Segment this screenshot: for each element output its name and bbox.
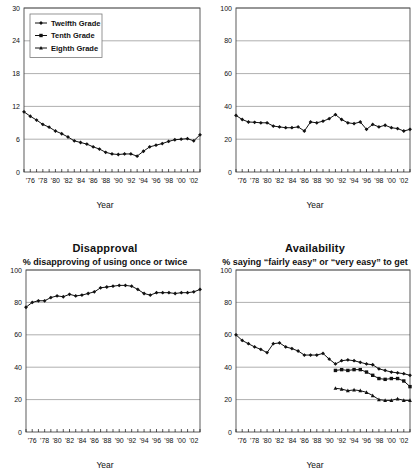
xaxis-tick-label: '00 <box>177 177 186 184</box>
xaxis-tick-label: '02 <box>399 437 408 444</box>
data-point-marker <box>61 295 65 299</box>
data-point-marker <box>396 377 399 380</box>
data-point-marker <box>315 353 319 357</box>
data-point-marker <box>358 360 362 364</box>
yaxis-tick-label: 100 <box>220 5 232 12</box>
xaxis-tick-label: '02 <box>399 177 408 184</box>
data-point-marker <box>383 123 387 127</box>
data-point-marker <box>383 378 386 381</box>
data-point-marker <box>167 139 171 143</box>
plot-area-bottom-right: 020406080100'76'78'80'82'84'86'88'90'92'… <box>210 238 420 460</box>
yaxis-tick-label: 40 <box>224 364 232 371</box>
yaxis-tick-label: 20 <box>224 396 232 403</box>
xaxis-title-top-right: Year <box>210 200 420 210</box>
four-panel-chart-figure: 0612182430'76'78'80'82'84'86'88'90'92'94… <box>0 0 420 475</box>
data-point-marker <box>117 283 121 287</box>
data-point-marker <box>105 285 109 289</box>
data-point-marker <box>383 369 387 373</box>
data-point-marker <box>284 126 288 130</box>
yaxis-tick-label: 0 <box>228 429 232 436</box>
xaxis-tick-label: '96 <box>152 437 161 444</box>
yaxis-tick-label: 24 <box>12 37 20 44</box>
data-point-marker <box>271 124 275 128</box>
data-point-marker <box>408 127 412 131</box>
xaxis-tick-label: '78 <box>250 177 259 184</box>
data-point-marker <box>321 119 325 123</box>
xaxis-tick-label: '86 <box>89 177 98 184</box>
xaxis-tick-label: '86 <box>90 437 99 444</box>
data-point-marker <box>352 359 356 363</box>
data-point-marker <box>408 385 411 388</box>
xaxis-tick-label: '82 <box>63 177 72 184</box>
xaxis-tick-label: '84 <box>77 437 86 444</box>
xaxis-title-top-left: Year <box>0 200 210 210</box>
data-point-marker <box>155 291 159 295</box>
xaxis-tick-label: '84 <box>76 177 85 184</box>
xaxis-tick-label: '02 <box>189 177 198 184</box>
xaxis-tick-label: '76 <box>28 437 37 444</box>
legend-label: Twelfth Grade <box>51 19 100 28</box>
xaxis-tick-label: '76 <box>238 177 247 184</box>
data-point-marker <box>85 142 89 146</box>
xaxis-tick-label: '76 <box>238 437 247 444</box>
data-point-marker <box>79 141 83 145</box>
data-point-marker <box>346 369 349 372</box>
data-point-marker <box>402 379 405 382</box>
xaxis-tick-label: '98 <box>164 177 173 184</box>
data-point-marker <box>377 377 380 380</box>
data-point-marker <box>408 373 412 377</box>
data-point-marker <box>111 284 115 288</box>
data-point-marker <box>68 292 72 296</box>
data-point-marker <box>80 293 84 297</box>
data-point-marker <box>359 368 362 371</box>
data-point-marker <box>346 121 350 125</box>
xaxis-tick-label: '90 <box>115 437 124 444</box>
yaxis-tick-label: 60 <box>14 331 22 338</box>
xaxis-tick-label: '80 <box>51 177 60 184</box>
yaxis-tick-label: 0 <box>18 429 22 436</box>
data-point-marker <box>396 127 400 131</box>
data-point-marker <box>365 362 369 366</box>
xaxis-tick-label: '78 <box>40 437 49 444</box>
xaxis-tick-label: '96 <box>362 177 371 184</box>
chart-panel-bottom-left: Disapproval % disapproving of using once… <box>0 238 210 475</box>
data-point-marker <box>352 122 356 126</box>
yaxis-tick-label: 80 <box>14 299 22 306</box>
data-point-marker <box>389 126 393 130</box>
data-point-marker <box>154 143 158 147</box>
yaxis-tick-label: 60 <box>224 331 232 338</box>
yaxis-tick-label: 20 <box>224 136 232 143</box>
data-point-marker <box>148 293 152 297</box>
xaxis-tick-label: '92 <box>337 177 346 184</box>
xaxis-tick-label: '96 <box>362 437 371 444</box>
data-point-marker <box>253 345 257 349</box>
data-point-marker <box>247 120 251 124</box>
data-point-marker <box>278 125 282 129</box>
xaxis-tick-label: '94 <box>350 177 359 184</box>
yaxis-tick-label: 100 <box>220 267 232 274</box>
xaxis-title-bottom-left: Year <box>0 460 210 470</box>
data-point-marker <box>259 121 263 125</box>
data-point-marker <box>173 138 177 142</box>
plot-area-top-left: 0612182430'76'78'80'82'84'86'88'90'92'94… <box>0 0 210 200</box>
chart-panel-bottom-right: Availability % saying “fairly easy” or “… <box>210 238 420 475</box>
plot-frame <box>236 270 410 432</box>
xaxis-tick-label: '84 <box>287 437 296 444</box>
yaxis-tick-label: 40 <box>14 364 22 371</box>
chart-panel-top-right: 020406080100'76'78'80'82'84'86'88'90'92'… <box>210 0 420 237</box>
data-point-marker <box>116 153 120 157</box>
data-point-marker <box>179 291 183 295</box>
xaxis-tick-label: '82 <box>65 437 74 444</box>
data-point-marker <box>396 397 400 401</box>
xaxis-tick-label: '92 <box>337 437 346 444</box>
yaxis-tick-label: 0 <box>16 169 20 176</box>
xaxis-tick-label: '92 <box>127 437 136 444</box>
data-point-marker <box>340 368 343 371</box>
data-point-marker <box>179 137 183 141</box>
data-point-marker <box>186 137 190 141</box>
xaxis-tick-label: '86 <box>300 177 309 184</box>
xaxis-tick-label: '94 <box>140 437 149 444</box>
data-point-marker <box>402 372 406 376</box>
series-twelfth-grade <box>22 110 202 158</box>
data-point-marker <box>247 342 251 346</box>
